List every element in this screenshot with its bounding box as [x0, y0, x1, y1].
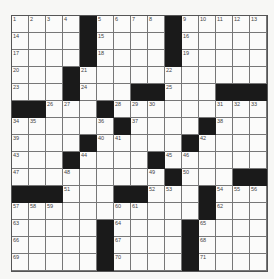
- crossword-cell[interactable]: [165, 101, 182, 118]
- crossword-cell[interactable]: [199, 101, 216, 118]
- crossword-cell[interactable]: 26: [46, 101, 63, 118]
- crossword-cell[interactable]: [148, 118, 165, 135]
- crossword-cell[interactable]: [148, 254, 165, 271]
- crossword-cell[interactable]: [46, 118, 63, 135]
- crossword-cell[interactable]: [63, 254, 80, 271]
- crossword-cell[interactable]: [29, 169, 46, 186]
- crossword-cell[interactable]: 11: [216, 16, 233, 33]
- crossword-cell[interactable]: 68: [199, 237, 216, 254]
- crossword-cell[interactable]: [148, 33, 165, 50]
- crossword-cell[interactable]: 63: [12, 220, 29, 237]
- crossword-cell[interactable]: [233, 152, 250, 169]
- crossword-cell[interactable]: 66: [12, 237, 29, 254]
- crossword-cell[interactable]: [114, 84, 131, 101]
- crossword-cell[interactable]: 39: [12, 135, 29, 152]
- crossword-cell[interactable]: 71: [199, 254, 216, 271]
- crossword-cell[interactable]: [199, 33, 216, 50]
- crossword-cell[interactable]: [114, 67, 131, 84]
- crossword-cell[interactable]: [114, 33, 131, 50]
- crossword-cell[interactable]: [250, 33, 267, 50]
- crossword-cell[interactable]: [131, 152, 148, 169]
- crossword-cell[interactable]: [97, 84, 114, 101]
- crossword-cell[interactable]: [63, 135, 80, 152]
- crossword-cell[interactable]: [216, 169, 233, 186]
- crossword-cell[interactable]: 15: [97, 33, 114, 50]
- crossword-cell[interactable]: [148, 237, 165, 254]
- crossword-cell[interactable]: 8: [148, 16, 165, 33]
- crossword-cell[interactable]: [114, 50, 131, 67]
- crossword-cell[interactable]: 67: [114, 237, 131, 254]
- crossword-cell[interactable]: [216, 237, 233, 254]
- crossword-cell[interactable]: [46, 67, 63, 84]
- crossword-cell[interactable]: 70: [114, 254, 131, 271]
- crossword-cell[interactable]: [131, 220, 148, 237]
- crossword-cell[interactable]: [80, 101, 97, 118]
- crossword-cell[interactable]: [80, 186, 97, 203]
- crossword-cell[interactable]: 38: [216, 118, 233, 135]
- crossword-cell[interactable]: [114, 152, 131, 169]
- crossword-cell[interactable]: [46, 169, 63, 186]
- crossword-cell[interactable]: [250, 220, 267, 237]
- crossword-cell[interactable]: 32: [233, 101, 250, 118]
- crossword-cell[interactable]: [216, 152, 233, 169]
- crossword-cell[interactable]: [199, 67, 216, 84]
- crossword-cell[interactable]: 40: [97, 135, 114, 152]
- crossword-cell[interactable]: [63, 203, 80, 220]
- crossword-cell[interactable]: [29, 152, 46, 169]
- crossword-cell[interactable]: [131, 237, 148, 254]
- crossword-cell[interactable]: 42: [199, 135, 216, 152]
- crossword-cell[interactable]: [233, 118, 250, 135]
- crossword-cell[interactable]: [233, 33, 250, 50]
- crossword-cell[interactable]: [97, 203, 114, 220]
- crossword-cell[interactable]: 46: [182, 152, 199, 169]
- crossword-cell[interactable]: [114, 169, 131, 186]
- crossword-cell[interactable]: [182, 84, 199, 101]
- crossword-cell[interactable]: [182, 203, 199, 220]
- crossword-cell[interactable]: [250, 67, 267, 84]
- crossword-cell[interactable]: [216, 33, 233, 50]
- crossword-cell[interactable]: [131, 33, 148, 50]
- crossword-cell[interactable]: [233, 67, 250, 84]
- crossword-cell[interactable]: [29, 84, 46, 101]
- crossword-cell[interactable]: 12: [233, 16, 250, 33]
- crossword-cell[interactable]: 18: [97, 50, 114, 67]
- crossword-cell[interactable]: 25: [165, 84, 182, 101]
- crossword-cell[interactable]: [216, 50, 233, 67]
- crossword-cell[interactable]: [97, 152, 114, 169]
- crossword-cell[interactable]: [29, 67, 46, 84]
- crossword-cell[interactable]: [148, 67, 165, 84]
- crossword-cell[interactable]: 7: [131, 16, 148, 33]
- crossword-cell[interactable]: [63, 237, 80, 254]
- crossword-cell[interactable]: [46, 50, 63, 67]
- crossword-cell[interactable]: [250, 135, 267, 152]
- crossword-cell[interactable]: 30: [148, 101, 165, 118]
- crossword-cell[interactable]: [165, 254, 182, 271]
- crossword-cell[interactable]: 57: [12, 203, 29, 220]
- crossword-cell[interactable]: 16: [182, 33, 199, 50]
- crossword-cell[interactable]: 37: [131, 118, 148, 135]
- crossword-cell[interactable]: 22: [165, 67, 182, 84]
- crossword-cell[interactable]: [216, 220, 233, 237]
- crossword-cell[interactable]: 44: [80, 152, 97, 169]
- crossword-cell[interactable]: [199, 152, 216, 169]
- crossword-cell[interactable]: [46, 152, 63, 169]
- crossword-cell[interactable]: 61: [131, 203, 148, 220]
- crossword-cell[interactable]: [131, 67, 148, 84]
- crossword-cell[interactable]: [80, 254, 97, 271]
- crossword-cell[interactable]: 50: [182, 169, 199, 186]
- crossword-cell[interactable]: 29: [131, 101, 148, 118]
- crossword-cell[interactable]: 33: [250, 101, 267, 118]
- crossword-cell[interactable]: [250, 254, 267, 271]
- crossword-cell[interactable]: [165, 135, 182, 152]
- crossword-cell[interactable]: [199, 84, 216, 101]
- crossword-cell[interactable]: [233, 50, 250, 67]
- crossword-cell[interactable]: [131, 50, 148, 67]
- crossword-cell[interactable]: 23: [12, 84, 29, 101]
- crossword-cell[interactable]: [165, 237, 182, 254]
- crossword-cell[interactable]: 60: [114, 203, 131, 220]
- crossword-cell[interactable]: [46, 84, 63, 101]
- crossword-cell[interactable]: [250, 50, 267, 67]
- crossword-cell[interactable]: [80, 169, 97, 186]
- crossword-cell[interactable]: 9: [182, 16, 199, 33]
- crossword-cell[interactable]: [233, 203, 250, 220]
